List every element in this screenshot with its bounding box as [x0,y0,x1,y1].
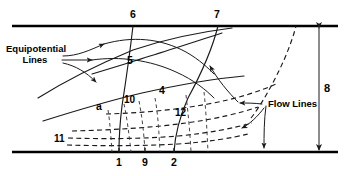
flow-net-drawing [0,0,350,176]
equipotential-leader-up [63,44,104,56]
label-a-text: a [96,100,102,112]
dimension-label-8: 8 [324,83,330,94]
flow-lines-leader-to-bottom [264,106,266,148]
dashed-flow-lines [67,26,296,146]
dashed-flow-line-11 [68,123,252,139]
label-10: 10 [124,95,135,105]
label-12-text: 12 [175,107,186,118]
label-5-text: 5 [127,54,133,66]
flow-net-figure: Equipotential Lines Flow Lines 6 7 1 9 2… [0,0,350,176]
label-bottom-1-text: 1 [116,156,122,168]
equipotential-lines-callout-line2: Lines [6,55,64,66]
label-11-text: 11 [54,133,65,144]
label-top-6: 6 [130,9,136,20]
label-bottom-9: 9 [142,157,148,168]
flow-lines-callout-label: Flow Lines [268,98,317,109]
equipotential-arc-middle [43,76,244,121]
label-bottom-2: 2 [171,157,177,168]
flow-lines-leader-upper [240,103,262,104]
label-10-text: 10 [124,94,135,105]
label-12: 12 [175,108,186,118]
label-4-text: 4 [159,84,165,96]
label-top-7: 7 [214,9,220,20]
label-bottom-9-text: 9 [142,156,148,168]
label-bottom-2-text: 2 [171,156,177,168]
equipotential-leader-long [104,39,214,74]
equipotential-leader-long-2 [92,59,214,99]
label-4: 4 [159,85,165,96]
flow-line-6 [119,26,133,152]
flow-lines-callout: Flow Lines [268,99,317,110]
dashed-equipotential-1 [124,104,131,152]
equipotential-arc-upper [38,28,232,98]
flow-lines-leader-to-7 [210,66,238,102]
dashed-equipotential-2 [139,101,145,152]
dimension-label-8-text: 8 [324,82,330,94]
label-a: a [96,101,102,112]
label-5: 5 [127,55,133,66]
label-top-7-text: 7 [214,8,220,20]
dashed-flow-line-bottom [67,134,248,146]
dashed-equipotential-3 [155,98,160,152]
dashed-equipotential-5 [204,92,208,152]
flow-line-7 [174,26,218,152]
equipotential-leader-down [63,63,96,82]
label-bottom-1: 1 [116,157,122,168]
label-11: 11 [54,134,65,144]
label-top-6-text: 6 [130,8,136,20]
equipotential-lines-callout: Equipotential Lines [6,44,64,65]
